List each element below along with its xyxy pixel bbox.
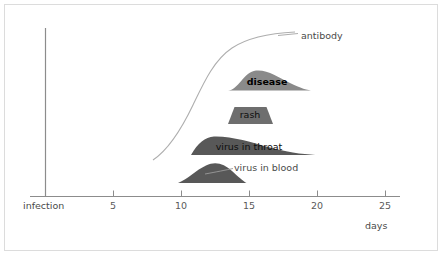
chart-canvas: [0, 0, 443, 256]
x-tick-label-25: 25: [379, 201, 391, 211]
x-axis-ticks: [114, 191, 386, 197]
virus-throat-label: virus in throat: [216, 142, 283, 152]
disease-label: disease: [247, 77, 288, 87]
chart-figure: infection 5 10 15 20 25 days antibody di…: [0, 0, 443, 256]
x-tick-label-20: 20: [311, 201, 323, 211]
antibody-label: antibody: [301, 31, 343, 41]
x-axis-title: days: [365, 221, 387, 231]
axis-origin-label: infection: [23, 201, 64, 211]
x-tick-label-5: 5: [110, 201, 116, 211]
antibody-leader-line: [278, 34, 298, 36]
x-tick-label-15: 15: [243, 201, 255, 211]
x-tick-label-10: 10: [175, 201, 187, 211]
virus-blood-label: virus in blood: [234, 163, 298, 173]
rash-label: rash: [240, 110, 261, 120]
